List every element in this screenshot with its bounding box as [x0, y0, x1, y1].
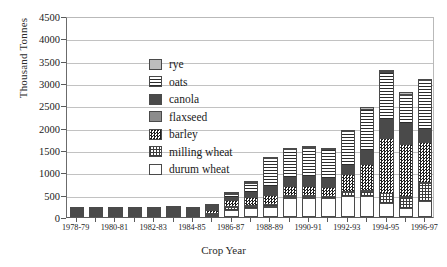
bar-stack[interactable] [89, 207, 103, 217]
x-axis-tick-mark [95, 218, 96, 222]
bar-segment-durum [263, 207, 277, 217]
bar-segment-durum [321, 198, 335, 217]
x-axis-tick-mark [424, 218, 425, 222]
gridline [67, 40, 433, 41]
legend-item-durum[interactable]: durum wheat [149, 163, 233, 175]
x-axis-tick-mark [76, 218, 77, 222]
x-axis-tick-label: 1990-91 [294, 223, 321, 232]
chart-legend: ryeoatscanolaflaxseedbarleymilling wheat… [149, 58, 233, 175]
legend-label: barley [169, 128, 198, 140]
gridline [67, 174, 433, 175]
legend-swatch-milling [149, 146, 162, 157]
gridline [67, 85, 433, 86]
y-axis-tick-mark [61, 218, 66, 219]
x-axis-tick-mark [153, 218, 154, 222]
y-axis-tick-label: 0 [20, 213, 60, 224]
legend-swatch-canola [149, 94, 162, 105]
bar-stack[interactable] [244, 182, 258, 217]
bar-segment-oats [263, 158, 277, 187]
bar-stack[interactable] [186, 207, 200, 217]
bar-stack[interactable] [321, 148, 335, 217]
bar-segment-oats [283, 149, 297, 178]
bar-segment-oats [399, 95, 413, 124]
bar-segment-oats [418, 80, 432, 130]
x-axis-tick-mark [386, 218, 387, 222]
legend-swatch-durum [149, 164, 162, 175]
bar-stack[interactable] [205, 205, 219, 217]
x-axis-tick-label: 1984-85 [178, 223, 205, 232]
legend-label: flaxseed [169, 111, 207, 123]
bar-segment-barley [341, 174, 355, 192]
bar-segment-oats [360, 109, 374, 151]
legend-item-barley[interactable]: barley [149, 128, 233, 140]
x-axis-tick-label: 1980-81 [101, 223, 128, 232]
bar-stack[interactable] [360, 108, 374, 217]
bar-segment-durum [108, 215, 122, 217]
y-axis-tick-label: 1500 [20, 146, 60, 157]
legend-item-oats[interactable]: oats [149, 76, 233, 88]
bar-stack[interactable] [166, 207, 180, 217]
x-axis-tick-mark [308, 218, 309, 222]
bar-segment-canola [360, 150, 374, 163]
bar-segment-oats [341, 131, 355, 166]
x-axis-tick-mark [231, 218, 232, 222]
bar-segment-durum [186, 215, 200, 217]
bar-stack[interactable] [224, 193, 238, 217]
bar-segment-durum [205, 215, 219, 217]
x-axis-tick-mark [405, 218, 406, 222]
x-axis-tick-mark [192, 218, 193, 222]
bar-segment-durum [360, 196, 374, 217]
legend-item-flax[interactable]: flaxseed [149, 111, 233, 123]
legend-swatch-flax [149, 111, 162, 122]
bar-stack[interactable] [379, 70, 393, 217]
bar-segment-durum [166, 215, 180, 217]
legend-item-canola[interactable]: canola [149, 93, 233, 105]
bar-segment-durum [341, 196, 355, 217]
bar-segment-durum [418, 201, 432, 217]
bar-segment-oats [321, 149, 335, 179]
bar-stack[interactable] [341, 130, 355, 217]
bar-segment-durum [302, 198, 316, 217]
legend-label: canola [169, 93, 199, 105]
bar-segment-milling [418, 183, 432, 202]
bar-segment-durum [128, 215, 142, 217]
bar-stack[interactable] [283, 148, 297, 217]
legend-item-rye[interactable]: rye [149, 58, 233, 70]
x-axis-tick-label: 1982-83 [140, 223, 167, 232]
x-axis-tick-mark [173, 218, 174, 222]
bar-stack[interactable] [418, 79, 432, 217]
gridline [67, 107, 433, 108]
stacked-bar-chart: Thousand Tonnes 050010001500200025003000… [0, 0, 447, 267]
x-axis-tick-label: 1992-93 [333, 223, 360, 232]
bar-segment-barley [302, 186, 316, 197]
bar-segment-durum [224, 210, 238, 217]
y-axis-tick-label: 4000 [20, 34, 60, 45]
bar-stack[interactable] [302, 147, 316, 217]
gridline [67, 130, 433, 131]
bar-stack[interactable] [399, 93, 413, 217]
bar-segment-canola [379, 120, 393, 137]
gridline [67, 63, 433, 64]
bar-segment-durum [379, 203, 393, 217]
bar-stack[interactable] [263, 157, 277, 217]
bar-stack[interactable] [147, 207, 161, 217]
bar-segment-durum [244, 208, 258, 217]
bar-segment-canola [418, 129, 432, 141]
legend-label: durum wheat [169, 163, 229, 175]
x-axis-tick-mark [250, 218, 251, 222]
x-axis-tick-mark [366, 218, 367, 222]
bar-stack[interactable] [128, 207, 142, 217]
bar-stack[interactable] [108, 207, 122, 217]
bar-segment-oats [379, 72, 393, 121]
legend-item-milling[interactable]: milling wheat [149, 146, 233, 158]
bar-segment-milling [399, 197, 413, 209]
bar-segment-canola [399, 124, 413, 143]
plot-area: ryeoatscanolaflaxseedbarleymilling wheat… [66, 17, 434, 218]
y-axis-tick-label: 2500 [20, 101, 60, 112]
x-axis-title: Crop Year [0, 244, 447, 256]
bar-stack[interactable] [70, 207, 84, 217]
x-axis-tick-mark [134, 218, 135, 222]
y-axis-tick-label: 500 [20, 190, 60, 201]
x-axis-tick-mark [347, 218, 348, 222]
bar-segment-oats [302, 148, 316, 177]
